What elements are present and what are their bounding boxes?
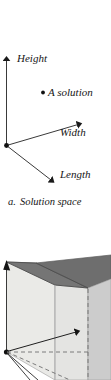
- box-front-right-face: [55, 285, 88, 380]
- axis-label-length: Length: [60, 168, 91, 180]
- solution-point-marker: [41, 91, 45, 95]
- axis-length: [7, 146, 52, 181]
- figure-caption: a.Solution space: [8, 196, 81, 208]
- axis-label-height: Height: [17, 52, 47, 64]
- axis-label-width: Width: [60, 126, 86, 138]
- caption-letter: a.: [8, 196, 16, 207]
- solution-point-label: A solution: [48, 86, 93, 98]
- origin-dot: [4, 143, 9, 148]
- panel-b-drawing: [3, 255, 111, 380]
- figure-page: Height A solution Width Length a.Solutio…: [0, 0, 111, 380]
- caption-text: Solution space: [20, 196, 82, 207]
- box-right-side-face: [88, 279, 111, 380]
